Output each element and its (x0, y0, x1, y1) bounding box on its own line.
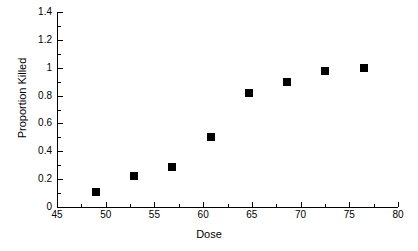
plot-area (57, 12, 398, 207)
y-tick-minor (58, 165, 61, 166)
x-tick-minor (179, 204, 180, 207)
y-tick-major (58, 96, 63, 97)
scatter-plot-figure: 4550556065707580 00.20.40.60.811.21.4 Do… (0, 0, 418, 251)
x-tick-label: 75 (329, 209, 369, 221)
y-tick-minor (58, 193, 61, 194)
data-point-marker (321, 67, 329, 75)
y-tick-minor (58, 110, 61, 111)
y-tick-minor (58, 137, 61, 138)
y-tick-major (58, 151, 63, 152)
x-axis-title: Dose (0, 228, 418, 240)
y-tick-major (58, 123, 63, 124)
y-tick-label: 1.4 (6, 7, 52, 17)
data-point-marker (245, 89, 253, 97)
y-tick-label: 0.8 (6, 91, 52, 101)
data-point-marker (92, 188, 100, 196)
y-tick-label: 0.6 (6, 118, 52, 128)
y-tick-label: 0.2 (6, 174, 52, 184)
data-point-marker (360, 64, 368, 72)
data-point-marker (168, 163, 176, 171)
x-tick-minor (374, 204, 375, 207)
x-tick-label: 55 (134, 209, 174, 221)
y-tick-label: 1.2 (6, 35, 52, 45)
x-tick-minor (325, 204, 326, 207)
y-axis-title: Proportion Killed (16, 28, 28, 168)
data-point-marker (207, 133, 215, 141)
y-tick-minor (58, 26, 61, 27)
x-tick-label: 50 (86, 209, 126, 221)
x-tick-minor (228, 204, 229, 207)
x-tick-label: 80 (378, 209, 418, 221)
x-tick-major (106, 202, 107, 207)
x-tick-label: 65 (232, 209, 272, 221)
y-tick-major (58, 40, 63, 41)
x-tick-major (154, 202, 155, 207)
data-point-marker (283, 78, 291, 86)
x-tick-major (203, 202, 204, 207)
y-tick-minor (58, 54, 61, 55)
x-tick-minor (276, 204, 277, 207)
x-tick-minor (130, 204, 131, 207)
y-tick-minor (58, 82, 61, 83)
y-tick-major (58, 207, 63, 208)
y-tick-label: 1 (6, 63, 52, 73)
x-tick-label: 70 (281, 209, 321, 221)
y-tick-major (58, 12, 63, 13)
x-tick-major (301, 202, 302, 207)
y-tick-label: 0 (6, 202, 52, 212)
x-tick-major (252, 202, 253, 207)
x-axis-line (57, 207, 398, 208)
x-tick-label: 60 (183, 209, 223, 221)
x-tick-minor (81, 204, 82, 207)
y-tick-major (58, 68, 63, 69)
x-tick-major (349, 202, 350, 207)
data-point-marker (130, 172, 138, 180)
y-tick-label: 0.4 (6, 146, 52, 156)
x-tick-major (398, 202, 399, 207)
y-tick-major (58, 179, 63, 180)
